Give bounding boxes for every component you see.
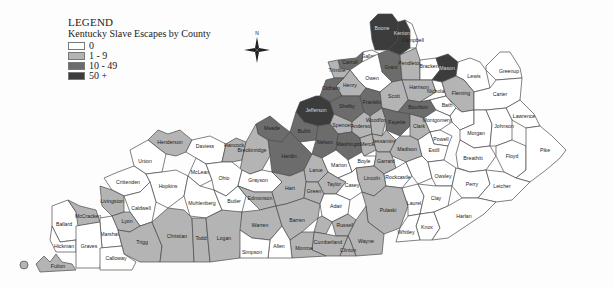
svg-text:Johnson: Johnson (494, 123, 514, 129)
svg-text:Boone: Boone (374, 25, 389, 31)
svg-text:Hickman: Hickman (54, 243, 74, 249)
svg-text:Graves: Graves (81, 243, 98, 249)
svg-text:Russell: Russell (336, 222, 353, 228)
svg-text:Logan: Logan (217, 235, 232, 241)
svg-text:Hopkins: Hopkins (159, 183, 178, 189)
svg-text:Jefferson: Jefferson (305, 107, 326, 113)
svg-text:Caldwell: Caldwell (131, 205, 151, 211)
compass-north-label: N (255, 30, 259, 36)
svg-text:Bourbon: Bourbon (408, 104, 428, 110)
svg-text:Pendleton: Pendleton (398, 60, 421, 66)
svg-text:Allen: Allen (273, 243, 285, 249)
svg-text:Butler: Butler (227, 198, 241, 204)
svg-text:Powell: Powell (433, 136, 448, 142)
svg-text:Owen: Owen (365, 75, 379, 81)
svg-text:Letcher: Letcher (493, 183, 511, 189)
svg-text:Fleming: Fleming (452, 90, 471, 96)
svg-text:Kenton: Kenton (394, 30, 411, 36)
svg-text:Henderson: Henderson (157, 139, 182, 145)
svg-text:Knox: Knox (421, 224, 433, 230)
svg-text:Owsley: Owsley (434, 173, 451, 179)
svg-text:Simpson: Simpson (242, 249, 262, 255)
svg-text:Perry: Perry (466, 181, 479, 187)
svg-text:Casey: Casey (345, 182, 360, 188)
svg-text:Bracken: Bracken (419, 63, 438, 69)
svg-text:Breckinridge: Breckinridge (238, 147, 267, 153)
svg-text:Campbell: Campbell (402, 37, 424, 43)
county-daviess[interactable] (186, 136, 226, 164)
svg-text:Warren: Warren (252, 222, 269, 228)
svg-text:McLean: McLean (191, 169, 210, 175)
kentucky-map: N Boone Kenton Campbell Gallatin Grant P… (0, 0, 614, 287)
svg-text:Carter: Carter (493, 91, 508, 97)
svg-text:Trigg: Trigg (136, 239, 148, 245)
svg-text:Lyon: Lyon (121, 218, 132, 224)
svg-text:Pulaski: Pulaski (380, 207, 397, 213)
svg-text:Calloway: Calloway (105, 255, 126, 261)
svg-text:Clay: Clay (431, 195, 442, 201)
svg-text:Lewis: Lewis (467, 73, 481, 79)
svg-text:Scott: Scott (388, 93, 400, 99)
svg-text:Meade: Meade (264, 125, 280, 131)
svg-text:Clark: Clark (413, 123, 426, 129)
svg-text:Rockcastle: Rockcastle (385, 174, 410, 180)
compass-rose-icon: N (244, 30, 270, 63)
svg-text:Edmonson: Edmonson (248, 195, 273, 201)
svg-text:Cumberland: Cumberland (314, 239, 342, 245)
svg-text:Whitley: Whitley (397, 229, 414, 235)
svg-text:Fayette: Fayette (388, 119, 405, 125)
map-figure: LEGEND Kentucky Slave Escapes by County … (0, 0, 614, 287)
svg-text:Lawrence: Lawrence (513, 113, 536, 119)
svg-text:McCracken: McCracken (75, 213, 101, 219)
svg-text:Livingston: Livingston (100, 198, 123, 204)
svg-text:Christian: Christian (167, 233, 188, 239)
svg-text:Anderson: Anderson (351, 123, 373, 129)
svg-text:Trimble: Trimble (328, 67, 345, 73)
svg-text:Henry: Henry (343, 82, 357, 88)
svg-text:Oldham: Oldham (322, 85, 340, 91)
svg-text:Laurel: Laurel (407, 200, 421, 206)
svg-text:Green: Green (307, 188, 322, 194)
svg-text:Greenup: Greenup (499, 68, 519, 74)
svg-text:Todd: Todd (195, 235, 206, 241)
svg-text:Pike: Pike (540, 147, 550, 153)
county-greenup[interactable] (486, 52, 522, 80)
svg-text:Barren: Barren (289, 217, 305, 223)
svg-text:Lincoln: Lincoln (364, 175, 381, 181)
svg-text:Spencer: Spencer (332, 122, 352, 128)
svg-text:Clinton: Clinton (340, 247, 356, 253)
svg-text:Larue: Larue (309, 167, 322, 173)
svg-text:Marshall: Marshall (100, 231, 120, 237)
svg-text:Franklin: Franklin (363, 99, 382, 105)
svg-text:Wayne: Wayne (358, 238, 374, 244)
svg-text:Hart: Hart (285, 185, 295, 191)
svg-text:Bullitt: Bullitt (298, 128, 311, 134)
svg-text:Crittenden: Crittenden (116, 179, 140, 185)
svg-text:Grayson: Grayson (248, 177, 268, 183)
counties: Boone Kenton Campbell Gallatin Grant Pen… (20, 14, 566, 272)
svg-text:Boyle: Boyle (358, 158, 371, 164)
svg-text:Floyd: Floyd (506, 153, 519, 159)
svg-text:Union: Union (138, 158, 152, 164)
svg-text:Ohio: Ohio (219, 175, 230, 181)
svg-text:Ballard: Ballard (56, 221, 72, 227)
svg-text:Taylor: Taylor (327, 181, 341, 187)
svg-text:Mason: Mason (439, 65, 455, 71)
svg-text:Garrard: Garrard (377, 158, 395, 164)
svg-text:Montgomery: Montgomery (423, 117, 452, 123)
svg-text:Shelby: Shelby (339, 103, 355, 109)
svg-text:Estill: Estill (429, 147, 440, 153)
svg-text:Jessamine: Jessamine (372, 138, 397, 144)
svg-text:Bath: Bath (442, 102, 453, 108)
svg-text:Grant: Grant (385, 64, 399, 70)
svg-text:Breathitt: Breathitt (463, 155, 483, 161)
svg-text:Harlan: Harlan (456, 213, 471, 219)
svg-text:Daviess: Daviess (196, 143, 215, 149)
svg-text:Muhlenberg: Muhlenberg (188, 200, 216, 206)
svg-text:Hardin: Hardin (281, 153, 296, 159)
svg-text:Adair: Adair (330, 203, 342, 209)
svg-text:Nelson: Nelson (317, 139, 333, 145)
svg-text:Madison: Madison (397, 146, 417, 152)
county-fulton-exclave[interactable] (20, 261, 28, 269)
svg-text:Morgan: Morgan (467, 130, 485, 136)
